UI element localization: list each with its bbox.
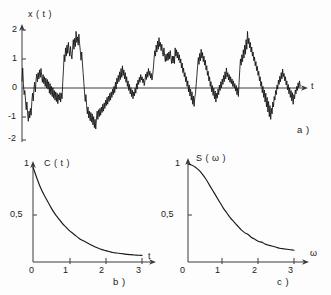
panel-b-tag: b )	[113, 276, 126, 287]
panel-c-ylabel: S ( ω )	[196, 153, 226, 163]
panel-b-ylabel: C ( t )	[44, 158, 70, 168]
panel-c-tag: c )	[277, 276, 289, 287]
panel-b-xtick-0: 0	[29, 265, 34, 275]
figure-root: x ( t ) t 2 1 0 -1 -2 a ) C ( t ) t 1	[0, 0, 331, 295]
panel-c-xtick-2: 2	[252, 265, 257, 275]
panel-a-ytick-0: 0	[12, 82, 17, 92]
panel-c-xtick-0: 0	[180, 265, 185, 275]
panel-c-curve	[188, 164, 294, 250]
panel-b-ytick-05: 0,5	[10, 209, 23, 219]
panel-a-trace	[22, 31, 300, 129]
panel-b-xlabel: t	[148, 251, 151, 261]
panel-a-ytick-neg2: -2	[8, 133, 16, 143]
panel-a-ytick-neg1: -1	[8, 111, 16, 121]
panel-a-ylabel: x ( t )	[28, 9, 52, 19]
panel-a-plot-svg	[0, 0, 331, 145]
panel-b-xtick-2: 2	[99, 265, 104, 275]
panel-b-xtick-1: 1	[63, 265, 68, 275]
panel-c-xtick-3: 3	[288, 265, 293, 275]
panel-c-plot-svg	[165, 145, 331, 295]
panel-c-ytick-05: 0,5	[161, 209, 174, 219]
panel-c-xtick-1: 1	[215, 265, 220, 275]
panel-a-xlabel: t	[311, 81, 314, 91]
panel-b-correlation: C ( t ) t 1 0,5 0 1 2 3 b )	[0, 145, 165, 295]
panel-c-spectral-density: S ( ω ) ω 1 0,5 0 1 2 3 c )	[165, 145, 331, 295]
panel-c-xlabel: ω	[310, 248, 318, 258]
panel-a-tag: a )	[297, 124, 310, 135]
panel-a-ytick-1: 1	[12, 53, 17, 63]
panel-b-xtick-3: 3	[136, 265, 141, 275]
panel-a-ytick-2: 2	[12, 24, 17, 34]
panel-b-ytick-1: 1	[24, 158, 29, 168]
panel-a-time-series: x ( t ) t 2 1 0 -1 -2 a )	[0, 0, 331, 145]
panel-b-curve	[33, 167, 142, 255]
panel-c-ytick-1: 1	[175, 158, 180, 168]
